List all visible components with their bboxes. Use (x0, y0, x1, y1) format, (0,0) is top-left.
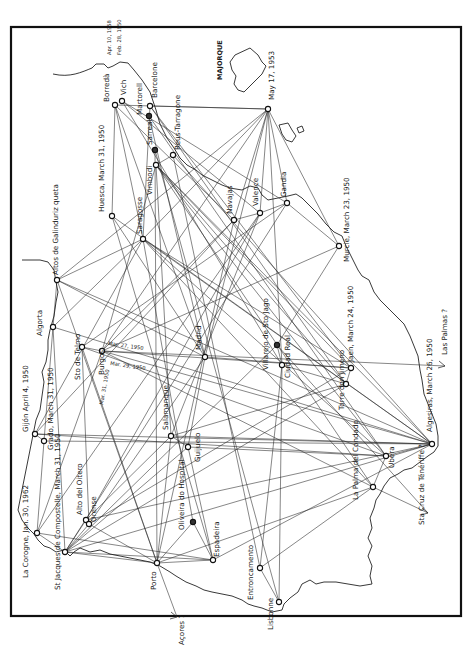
node-espadeira (210, 557, 215, 562)
label-orense: Orense (89, 496, 98, 522)
region-label-majorque: MAJORQUE (216, 40, 224, 80)
node-guijuelo (185, 444, 190, 449)
connection-line (188, 447, 213, 560)
node-salamanque (168, 433, 173, 438)
connection-line (102, 109, 268, 351)
direction-arrows (170, 361, 445, 619)
connection-line (82, 347, 157, 563)
label-lapalma: La Palma del Condado (351, 420, 360, 500)
ufo-orthoteny-map: BorredàVichBarceloneMartorellReus-Tarrag… (0, 0, 473, 651)
node-algorta (50, 324, 55, 329)
connection-line (86, 436, 171, 520)
label-acores: Açores ? (177, 615, 186, 645)
connection-line (279, 365, 282, 602)
node-may17 (265, 106, 270, 111)
connection-line (37, 213, 260, 533)
node-reus (170, 152, 175, 157)
label-algesiras: Algesiras, March 26, 1950 (425, 338, 434, 432)
connection-line (37, 533, 213, 560)
node-barcelone (147, 103, 152, 108)
label-martorell: Martorell (135, 83, 144, 115)
connection-line (260, 568, 279, 602)
node-lacoruna (34, 530, 39, 535)
label-may17: May 17, 1953 (267, 51, 276, 100)
connection-line (171, 213, 260, 436)
connection-line (157, 563, 177, 617)
node-porto (154, 560, 159, 565)
label-altos: Altos de Galinduriz queta (51, 184, 60, 275)
connection-line (157, 560, 213, 563)
connection-line (102, 220, 234, 351)
label-salamanque: Salamanque (161, 385, 170, 430)
node-sarreal (152, 147, 157, 152)
connection-line (65, 552, 213, 560)
node-murcie (336, 243, 341, 248)
node-borreda (112, 102, 117, 107)
connection-line (35, 220, 234, 434)
node-gijon (32, 431, 37, 436)
connection-line (260, 365, 282, 568)
label-lacoruna: La Corogne, Jan. 30, 1962 (21, 485, 30, 578)
label-huesca: Huesca, March 31, 1950 (97, 124, 106, 212)
place-labels: BorredàVichBarceloneMartorellReus-Tarrag… (21, 19, 449, 645)
label-torredon: Torre don Jimeno (337, 350, 346, 411)
connection-line (193, 522, 213, 560)
connection-line (37, 441, 44, 533)
label-borreda: Borredà (102, 74, 111, 102)
node-martorell (146, 113, 151, 118)
label-reus: Reus-Tarragone (173, 94, 182, 150)
connection-line (155, 150, 157, 563)
label-navajas: Navajas (225, 185, 234, 214)
label-gijon: Gijón April 4, 1950 (21, 365, 30, 432)
connection-line (89, 524, 157, 563)
connection-line (205, 109, 268, 357)
label-stotelmo: Sto de Telmo (73, 334, 82, 380)
label-valence: Valence (251, 177, 260, 206)
connection-line (65, 552, 157, 563)
node-compostelle (62, 549, 67, 554)
connection-line (82, 203, 287, 347)
connection-line (171, 384, 346, 436)
label-vimbodi: Vimbodi (145, 166, 154, 195)
node-vimbodi (153, 162, 158, 167)
node-jaen (348, 365, 353, 370)
connection-line (150, 106, 268, 109)
label-ubera: Ubera (387, 446, 396, 468)
connection-line (112, 105, 115, 216)
label-altodelo: Alto del Oitero (75, 463, 84, 515)
connection-line (102, 351, 445, 366)
node-algesiras (429, 441, 434, 446)
node-villarejo (274, 342, 279, 347)
node-valence (257, 210, 262, 215)
label-jaen: Jaen, March 24, 1950 (346, 285, 355, 363)
node-oliveira (190, 519, 195, 524)
node-gandia (284, 200, 289, 205)
connection-line (143, 239, 351, 368)
label-villarejo: Villarejo de Sto Jago (261, 298, 270, 370)
node-vich (119, 98, 124, 103)
label-porto: Porto (149, 571, 158, 590)
label-tenerife: Sta Cruz de Ténériffe ? (417, 444, 426, 525)
node-saragosse (140, 236, 145, 241)
label-ciudadreal: Ciudad Real (283, 335, 292, 378)
arrow-head-icon (438, 361, 445, 368)
node-lapalma (370, 484, 375, 489)
node-altos (54, 277, 59, 282)
label-espadeira: Espadeira (212, 521, 221, 557)
connection-line (65, 203, 287, 552)
label-compostelle: St Jacques de Compostelle, March 31, 195… (53, 433, 62, 590)
label-saragosse: Saragosse (135, 196, 144, 234)
node-navajas (231, 217, 236, 222)
node-lisbonne (276, 599, 281, 604)
label-lasPalmas: Las Palmas ? (440, 309, 449, 355)
label-gandia: Gandia (279, 172, 288, 198)
connection-line (268, 109, 282, 365)
node-entroncamento (257, 565, 262, 570)
connection-line (102, 351, 373, 487)
label-murcie: Murcie, March 23, 1950 (342, 177, 351, 262)
label-barcelone: Barcelone (150, 62, 159, 98)
map-frame (11, 27, 461, 616)
connection-line (65, 520, 86, 552)
label-sarreal: Sarreal (145, 120, 154, 145)
connection-line (86, 444, 432, 520)
